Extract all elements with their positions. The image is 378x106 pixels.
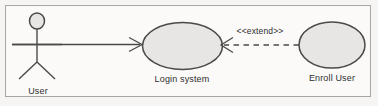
actor-head-icon [30,13,45,29]
use-case-diagram-canvas: .stroke-main { stroke: #4a4a4a; stroke-w… [0,0,378,106]
diagram-vector-layer: .stroke-main { stroke: #4a4a4a; stroke-w… [0,0,378,106]
relationship-enroll-extends-login[interactable] [221,38,299,53]
use-case-enroll-user-label: Enroll User [298,73,366,83]
use-case-ellipse [143,23,223,70]
actor-user[interactable] [12,13,62,79]
use-case-ellipse [299,22,365,68]
actor-user-label: User [20,86,56,96]
association-user-to-login[interactable] [12,38,142,52]
actor-leg-right-line [37,62,55,79]
use-case-login-system[interactable] [143,23,223,70]
use-case-enroll-user[interactable] [299,22,365,68]
extend-stereotype-label: <<extend>> [226,26,294,36]
actor-leg-left-line [19,62,37,79]
use-case-login-system-label: Login system [142,74,222,84]
